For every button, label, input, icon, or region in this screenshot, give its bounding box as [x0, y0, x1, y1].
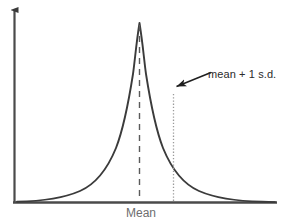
normal-distribution-figure: mean + 1 s.d. Mean: [0, 0, 281, 218]
chart-canvas: [0, 0, 281, 218]
x-axis-label: Mean: [126, 207, 166, 218]
annotation-label-mean-plus-1-sd: mean + 1 s.d.: [208, 68, 276, 81]
annotation-arrow: [177, 73, 212, 87]
normal-curve: [17, 23, 275, 202]
